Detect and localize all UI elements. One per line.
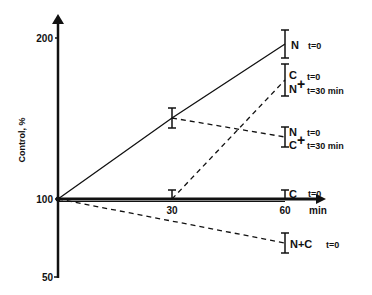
x-axis: 30 60 min [58, 194, 327, 216]
line-chart: 200 100 50 Control, % 30 60 min N t=0 C … [0, 0, 372, 295]
y-tick-200: 200 [36, 33, 53, 44]
label-nc-plus: + [297, 132, 305, 148]
label-cn-bottom: N [289, 83, 297, 95]
label-cn-plus: + [297, 76, 305, 92]
error-bar [168, 64, 289, 199]
error-bar [168, 30, 289, 128]
label-cn-top: C [289, 69, 297, 81]
y-axis-title: Control, % [17, 118, 27, 163]
label-n-time: t=0 [308, 41, 321, 51]
x-tick-30: 30 [166, 205, 178, 216]
y-axis-arrow-icon [52, 14, 64, 24]
series-n-plus-c: N+C t=0 [58, 199, 339, 253]
label-cn-time-bottom: t=30 min [307, 86, 344, 96]
label-nc-top: N [289, 126, 297, 138]
label-nc-time-top: t=0 [307, 128, 320, 138]
series-n-then-c: N C + t=0 t=30 min [172, 118, 344, 151]
label-c: C [289, 188, 297, 200]
x-tick-60: 60 [279, 205, 291, 216]
label-npc-time: t=0 [326, 240, 339, 250]
label-npc: N+C [290, 238, 312, 250]
label-nc-bottom: C [289, 139, 297, 151]
label-nc-time-bottom: t=30 min [307, 141, 344, 151]
y-tick-50: 50 [42, 272, 54, 283]
label-c-time: t=0 [308, 189, 321, 199]
label-cn-time-top: t=0 [307, 72, 320, 82]
series-n: N t=0 [58, 30, 321, 199]
y-tick-100: 100 [36, 194, 53, 205]
x-axis-unit: min [309, 205, 327, 216]
label-n: N [291, 39, 299, 51]
origin-point [56, 197, 61, 202]
y-axis: 200 100 50 Control, % [17, 14, 64, 283]
